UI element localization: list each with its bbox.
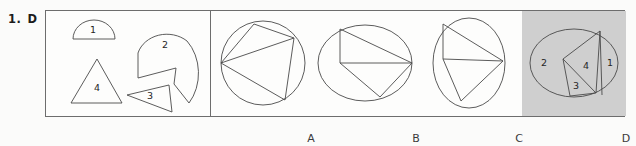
piece-2-label: 2 [162,39,168,50]
option-letter-a: A [301,132,321,145]
option-panel-b[interactable] [314,11,417,116]
option-panel-c[interactable] [417,11,522,116]
option-c-chord-1 [443,59,503,61]
option-a-inner-quad [221,24,294,100]
question-number: 1. [8,12,21,26]
option-c-outline [433,18,505,108]
option-d-cut-3 [600,31,602,95]
option-c-inner-quad [443,24,503,101]
option-letter-d: D [616,132,636,145]
option-panel-a[interactable] [210,11,314,116]
option-d-inner-triangle [563,31,600,93]
option-letter-b: B [406,132,426,145]
option-panel-d[interactable]: 2 4 1 3 [522,11,626,116]
question-answer: D [27,12,37,26]
question-label: 1.D [8,12,37,26]
option-d-region-label-2: 2 [541,57,547,68]
option-a-outline [221,21,305,105]
piece-4-label: 4 [94,82,100,93]
pieces-panel: 1 2 3 4 [46,11,210,116]
question-item: 1.D 1 2 3 4 [0,0,636,146]
option-d-region-label-3: 3 [573,80,579,91]
piece-4-shape [71,59,122,103]
option-d-region-label-1: 1 [607,57,613,68]
option-letter-c: C [509,132,529,145]
option-d-region-label-4: 4 [583,60,589,71]
piece-1-label: 1 [90,24,96,35]
answer-strip: 1 2 3 4 A [45,10,625,117]
piece-3-label: 3 [147,90,153,101]
